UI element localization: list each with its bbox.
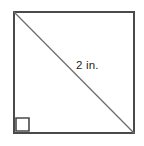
diagonal-length-label: 2 in. bbox=[76, 58, 99, 72]
figure-overlay bbox=[0, 0, 144, 146]
figure-canvas: 2 in. bbox=[0, 0, 144, 146]
diagonal-line bbox=[14, 12, 134, 133]
right-angle-marker-icon bbox=[16, 118, 29, 131]
